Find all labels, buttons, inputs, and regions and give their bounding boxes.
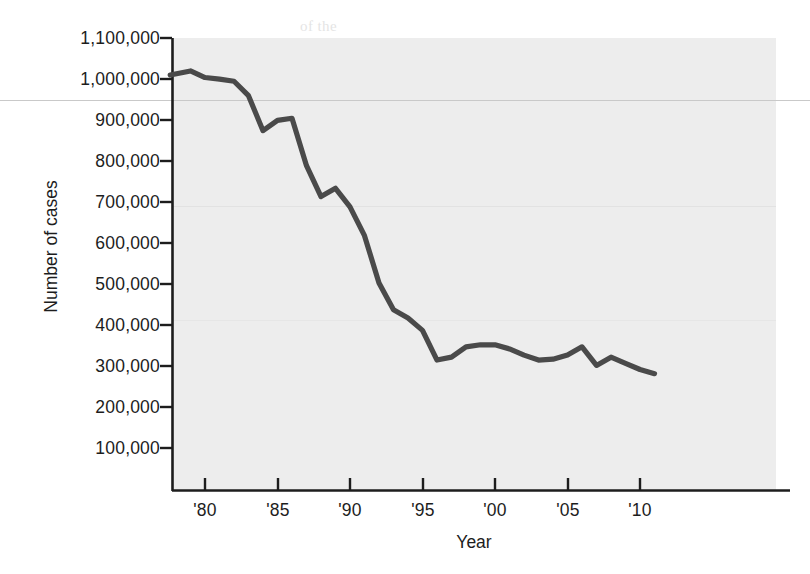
axis-lines (172, 38, 790, 491)
x-axis-ticks (205, 478, 640, 491)
page-corner-mark (8, 548, 26, 560)
chart-figure: of the in 1967. CDC reported the 1960s b… (0, 0, 810, 574)
data-series-line (170, 71, 654, 374)
chart-svg (0, 0, 810, 574)
y-axis-ticks (160, 38, 172, 448)
